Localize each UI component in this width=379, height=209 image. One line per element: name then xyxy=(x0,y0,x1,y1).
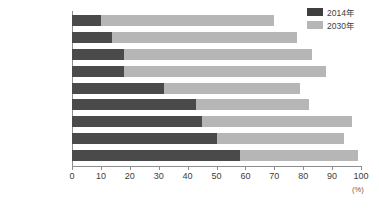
bar-segment-2014 xyxy=(72,83,164,94)
bar-row xyxy=(72,150,361,161)
x-tick-label: 50 xyxy=(211,171,221,181)
x-tick-label: 90 xyxy=(327,171,337,181)
x-tick xyxy=(159,166,160,170)
x-tick-label: 0 xyxy=(69,171,74,181)
x-tick-label: 30 xyxy=(154,171,164,181)
x-tick xyxy=(245,166,246,170)
bar-segment-2014 xyxy=(72,133,217,144)
x-tick xyxy=(130,166,131,170)
x-tick-label: 80 xyxy=(298,171,308,181)
x-axis-unit-label: (%) xyxy=(352,185,364,194)
x-tick-label: 70 xyxy=(269,171,279,181)
bar-row xyxy=(72,66,361,77)
bar-chart: 2014年 2030年 バングラデシュパキスタンインドネシアナイジェリアインドエ… xyxy=(0,0,379,209)
bar-segment-2014 xyxy=(72,32,112,43)
bar-row xyxy=(72,83,361,94)
bar-row xyxy=(72,15,361,26)
x-tick xyxy=(101,166,102,170)
bar-segment-2014 xyxy=(72,49,124,60)
x-tick xyxy=(72,166,73,170)
bar-segment-2014 xyxy=(72,150,240,161)
x-tick-label: 60 xyxy=(240,171,250,181)
x-tick-label: 40 xyxy=(183,171,193,181)
bar-row xyxy=(72,32,361,43)
x-tick xyxy=(332,166,333,170)
x-tick xyxy=(303,166,304,170)
bar-segment-2030 xyxy=(72,15,274,26)
x-tick xyxy=(188,166,189,170)
bar-segment-2014 xyxy=(72,66,124,77)
plot-area xyxy=(72,12,361,164)
x-tick xyxy=(217,166,218,170)
x-tick xyxy=(274,166,275,170)
x-tick-label: 20 xyxy=(125,171,135,181)
bar-row xyxy=(72,49,361,60)
x-tick-label: 100 xyxy=(353,171,368,181)
x-tick xyxy=(361,166,362,170)
x-tick-label: 10 xyxy=(96,171,106,181)
bar-segment-2014 xyxy=(72,99,196,110)
bar-row xyxy=(72,99,361,110)
bar-segment-2014 xyxy=(72,15,101,26)
bar-segment-2014 xyxy=(72,116,202,127)
bar-row xyxy=(72,133,361,144)
bar-row xyxy=(72,116,361,127)
